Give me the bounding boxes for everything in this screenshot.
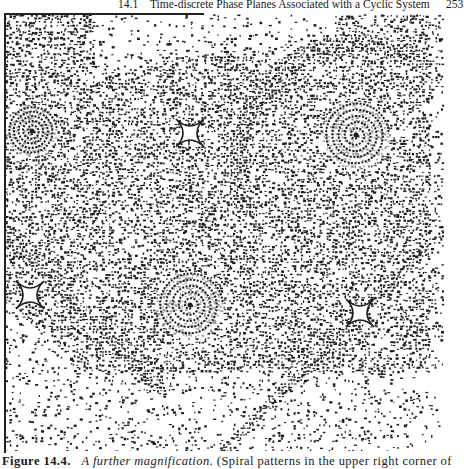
phase-plane-figure [4,13,444,451]
figure-caption: Figure 14.4. A further magnification. (S… [2,454,464,469]
figure-border-left [4,13,6,453]
section-number: 14.1 [118,0,138,9]
caption-label: Figure 14.4. [2,454,71,468]
running-title: Time-discrete Phase Planes Associated wi… [150,0,430,9]
page-number: 253 [446,0,463,9]
caption-italic: A further magnification. [81,454,213,468]
spiral-focus [6,105,58,157]
spiral-focus [322,101,390,169]
figure-border-top [4,13,204,15]
running-header: 14.1 Time-discrete Phase Planes Associat… [0,0,464,14]
spiral-focus [156,271,224,339]
stipple-plot [4,13,444,451]
caption-text: (Spiral patterns in the upper right corn… [217,454,452,468]
